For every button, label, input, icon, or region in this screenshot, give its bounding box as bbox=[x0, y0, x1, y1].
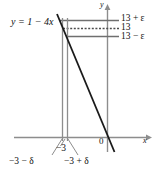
x-axis-label: x bbox=[143, 137, 147, 145]
x-tick-label-center: −3 bbox=[56, 144, 66, 154]
function-line bbox=[57, 14, 115, 152]
x-axis bbox=[14, 135, 152, 141]
y-axis-arrow-icon bbox=[105, 4, 111, 10]
y-axis-label: y bbox=[100, 1, 104, 9]
x-tick-label-plus-delta: −3 + δ bbox=[64, 157, 89, 167]
function-label: y = 1 − 4x bbox=[11, 17, 53, 27]
leader-line-right bbox=[68, 139, 78, 155]
epsilon-delta-limit-figure: y = 1 − 4x 13 + ε 13 13 − ε y x 0 −3 −3 … bbox=[0, 0, 154, 172]
x-tick-label-minus-delta: −3 − δ bbox=[9, 157, 34, 167]
origin-label: 0 bbox=[99, 137, 104, 146]
band-label-lower: 13 − ε bbox=[121, 32, 145, 42]
